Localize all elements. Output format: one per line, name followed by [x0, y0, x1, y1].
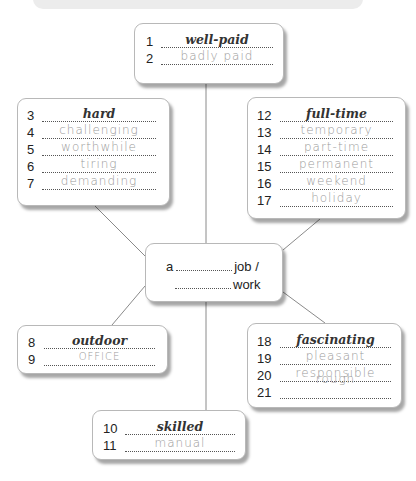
answer-text: worthwhile — [42, 139, 156, 155]
item-number: 19 — [257, 351, 271, 367]
item-number: 10 — [103, 421, 117, 437]
item-number: 1 — [146, 34, 153, 50]
box-skilled: 10 skilled 11 manual — [92, 410, 246, 460]
center-line-1: ajob / — [166, 259, 259, 274]
item-number: 2 — [146, 51, 153, 67]
box-well-paid: 1 well-paid 2 badly paid — [134, 23, 284, 84]
box-full-time: 12 full-time 13 temporary 14 part-time 1… — [247, 97, 406, 219]
answer-field[interactable]: holiday — [280, 193, 393, 207]
answer-field[interactable]: badly paid — [161, 51, 273, 65]
answer-field[interactable]: weekend — [280, 176, 393, 190]
answer-row: 11 manual — [93, 438, 245, 454]
answer-field[interactable]: rough — [280, 385, 391, 399]
box-outdoor: 8 outdoor 9 office — [17, 325, 168, 374]
answer-text: full-time — [280, 106, 393, 122]
center-blank-2[interactable] — [175, 287, 231, 289]
answer-text: badly paid — [161, 48, 273, 64]
answer-text: skilled — [125, 419, 235, 435]
answer-text: office — [44, 349, 155, 365]
item-number: 11 — [103, 438, 117, 454]
answer-text: challenging — [42, 122, 156, 138]
box-center-job-work: ajob / work — [145, 243, 283, 302]
answer-row: 9 office — [18, 352, 167, 368]
answer-text: manual — [125, 435, 235, 451]
answer-row: 21 rough — [248, 385, 401, 401]
item-number: 16 — [257, 176, 271, 192]
item-number: 12 — [257, 108, 271, 124]
box-hard: 3 hard 4 challenging 5 worthwhile 6 tiri… — [17, 98, 170, 206]
answer-text: demanding — [42, 173, 156, 189]
answer-field[interactable]: tiring — [42, 159, 156, 173]
answer-text: fascinating — [280, 332, 391, 348]
item-number: 9 — [28, 352, 35, 368]
answer-text: well-paid — [161, 32, 273, 48]
item-number: 20 — [257, 368, 271, 384]
item-number: 18 — [257, 334, 271, 350]
item-number: 5 — [27, 142, 34, 158]
answer-text: tiring — [42, 156, 156, 172]
answer-field[interactable]: full-time — [280, 108, 393, 122]
answer-row: 2 badly paid — [135, 51, 283, 67]
answer-row: 7 demanding — [18, 176, 169, 192]
center-job-label: job / — [234, 259, 259, 274]
answer-text: weekend — [280, 173, 393, 189]
answer-field[interactable]: outdoor — [44, 335, 155, 349]
answer-field[interactable]: permanent — [280, 159, 393, 173]
answer-row: 17 holiday — [248, 193, 405, 209]
answer-text: hard — [42, 106, 156, 122]
item-number: 13 — [257, 125, 271, 141]
center-line-2: work — [172, 277, 260, 292]
item-number: 7 — [27, 176, 34, 192]
answer-field[interactable]: skilled — [125, 421, 235, 435]
answer-field[interactable]: part-time — [280, 142, 393, 156]
answer-text: permanent — [280, 156, 393, 172]
answer-text: temporary — [280, 122, 393, 138]
answer-field[interactable]: temporary — [280, 125, 393, 139]
answer-field[interactable]: demanding — [42, 176, 156, 190]
answer-text: rough — [280, 371, 391, 387]
answer-field[interactable]: pleasant — [280, 351, 391, 365]
box-fascinating: 18 fascinating 19 pleasant 20 responsibl… — [247, 323, 402, 408]
answer-text: part-time — [280, 139, 393, 155]
item-number: 4 — [27, 125, 34, 141]
center-blank-1[interactable] — [176, 269, 232, 271]
answer-field[interactable]: office — [44, 352, 155, 366]
answer-text: pleasant — [280, 348, 391, 364]
center-work-label: work — [233, 277, 260, 292]
center-prefix: a — [166, 259, 173, 274]
answer-field[interactable]: hard — [42, 108, 156, 122]
item-number: 21 — [257, 385, 271, 401]
answer-field[interactable]: fascinating — [280, 334, 391, 348]
answer-text: outdoor — [44, 333, 155, 349]
answer-text: holiday — [280, 190, 393, 206]
item-number: 8 — [28, 335, 35, 351]
item-number: 14 — [257, 142, 271, 158]
answer-field[interactable]: manual — [125, 438, 235, 452]
item-number: 3 — [27, 108, 34, 124]
answer-field[interactable]: worthwhile — [42, 142, 156, 156]
item-number: 6 — [27, 159, 34, 175]
answer-field[interactable]: well-paid — [161, 34, 273, 48]
item-number: 15 — [257, 159, 271, 175]
item-number: 17 — [257, 193, 271, 209]
answer-field[interactable]: challenging — [42, 125, 156, 139]
